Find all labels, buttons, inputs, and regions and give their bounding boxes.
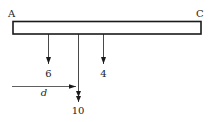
arrowhead-icon [101,57,106,64]
arrowhead-icon [76,96,81,102]
load-label-6: 6 [45,68,51,79]
load-arrow-6 [46,34,51,64]
arrowhead-icon [69,84,76,88]
label-c: C [196,8,204,19]
load-arrow-10 [76,34,81,102]
load-label-4: 4 [100,68,106,79]
dimension-label-d: d [41,87,47,98]
arrowhead-icon [46,57,51,64]
beam-diagram: A C 6 10 4 d [0,0,214,122]
load-label-10: 10 [72,105,85,116]
label-a: A [7,8,16,19]
load-arrow-4 [101,34,106,64]
beam [13,22,201,35]
